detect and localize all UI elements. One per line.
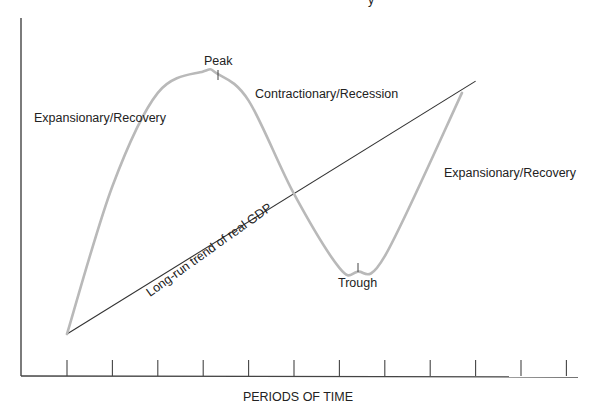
x-axis-ticks [67, 360, 566, 376]
business-cycle-diagram: y Expansionary/Recovery Peak Contraction… [0, 0, 595, 415]
label-expansion-right: Expansionary/Recovery [444, 166, 577, 180]
label-contraction: Contractionary/Recession [255, 87, 398, 101]
title-fragment: y [368, 0, 375, 7]
label-trough: Trough [338, 276, 377, 290]
label-peak: Peak [204, 54, 233, 68]
x-axis [21, 376, 578, 377]
x-axis-title: PERIODS OF TIME [243, 390, 353, 404]
label-expansion-left: Expansionary/Recovery [34, 111, 167, 125]
label-trend: Long-run trend of real GDP [144, 200, 275, 299]
